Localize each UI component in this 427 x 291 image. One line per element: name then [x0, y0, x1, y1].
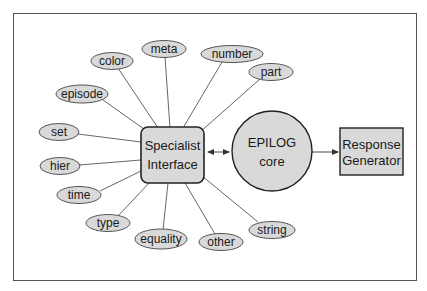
response-generator-label-line1: Response — [342, 137, 401, 152]
specialist-equality-label: equality — [140, 232, 181, 246]
specialist-set: set — [39, 124, 79, 141]
specialist-other-label: other — [207, 235, 234, 249]
response-generator-label-line2: Generator — [342, 153, 401, 168]
specialist-other: other — [199, 234, 243, 251]
specialist-string: string — [249, 222, 295, 239]
specialist-episode-label: episode — [61, 87, 103, 101]
specialist-time: time — [57, 187, 101, 204]
specialist-color: color — [91, 53, 133, 70]
specialist-part: part — [249, 64, 293, 81]
specialist-meta-label: meta — [151, 42, 178, 56]
specialist-number: number — [201, 46, 263, 63]
epilog-core-node: EPILOG core — [232, 111, 312, 191]
specialist-string-label: string — [257, 223, 286, 237]
epilog-architecture-diagram: Specialist Interface EPILOG core Respons… — [0, 0, 427, 291]
response-generator-box — [340, 128, 403, 175]
specialist-time-label: time — [68, 188, 91, 202]
specialist-type-label: type — [97, 216, 120, 230]
specialist-equality: equality — [135, 229, 187, 249]
specialist-color-label: color — [99, 54, 125, 68]
specialist-interface-box — [141, 127, 204, 183]
specialist-number-label: number — [212, 47, 253, 61]
epilog-core-circle — [232, 111, 312, 191]
specialist-interface-label-line1: Specialist — [145, 138, 201, 153]
specialist-episode: episode — [56, 85, 108, 103]
specialist-type: type — [86, 215, 130, 232]
specialist-meta: meta — [142, 41, 186, 58]
epilog-core-label-line2: core — [259, 154, 284, 169]
specialist-hier-label: hier — [50, 159, 70, 173]
response-generator-node: Response Generator — [340, 128, 403, 175]
specialist-hier: hier — [40, 158, 80, 175]
specialist-part-label: part — [261, 65, 282, 79]
specialist-set-label: set — [51, 125, 68, 139]
epilog-core-label-line1: EPILOG — [248, 135, 296, 150]
specialist-interface-node: Specialist Interface — [141, 127, 204, 183]
specialist-interface-label-line2: Interface — [147, 157, 198, 172]
